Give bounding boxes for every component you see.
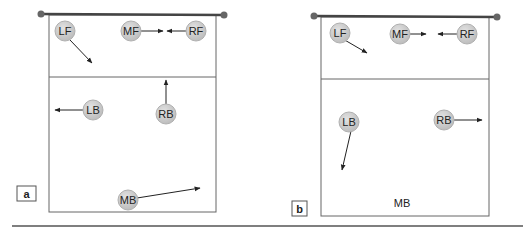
svg-text:MF: MF xyxy=(123,25,139,37)
player-rf-b: RF xyxy=(457,24,477,44)
svg-text:MF: MF xyxy=(392,28,408,40)
player-mf-a: MF xyxy=(121,21,141,41)
net-post-left-a xyxy=(38,11,45,18)
svg-text:b: b xyxy=(296,203,303,215)
svg-text:a: a xyxy=(23,188,30,200)
net-post-right-a xyxy=(221,12,228,19)
svg-text:RB: RB xyxy=(158,108,173,120)
player-mf-b: MF xyxy=(390,24,410,44)
player-mb-a: MB xyxy=(118,190,138,210)
player-rb-b: RB xyxy=(434,110,454,130)
net-b xyxy=(314,16,497,17)
player-rb-a: RB xyxy=(156,104,176,124)
player-mb-b: MB xyxy=(394,197,411,209)
arrow-lf-a xyxy=(70,40,92,63)
panel-b: LF MF RF LB RB MB b xyxy=(292,13,501,217)
svg-text:LF: LF xyxy=(59,25,72,37)
panel-a: LF MF RF LB RB MB a xyxy=(17,11,228,213)
svg-text:RF: RF xyxy=(460,28,475,40)
net-a xyxy=(41,14,224,15)
diagram-canvas: LF MF RF LB RB MB a xyxy=(0,0,523,229)
player-rf-a: RF xyxy=(186,21,206,41)
panel-label-a: a xyxy=(17,186,36,201)
player-lb-b: LB xyxy=(339,112,359,132)
arrow-mb-a xyxy=(137,188,200,198)
net-post-right-b xyxy=(494,14,501,21)
player-lf-b: LF xyxy=(330,23,350,43)
svg-text:LB: LB xyxy=(86,104,99,116)
net-post-left-b xyxy=(311,13,318,20)
svg-text:MB: MB xyxy=(120,194,137,206)
arrow-lb-b xyxy=(342,131,351,170)
svg-text:LF: LF xyxy=(334,27,347,39)
svg-text:RF: RF xyxy=(189,25,204,37)
player-lf-a: LF xyxy=(55,21,75,41)
svg-text:LB: LB xyxy=(342,116,355,128)
player-lb-a: LB xyxy=(83,100,103,120)
panel-label-b: b xyxy=(292,201,307,216)
svg-text:RB: RB xyxy=(436,114,451,126)
